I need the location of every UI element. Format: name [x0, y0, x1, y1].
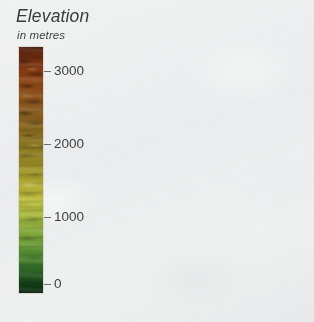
tick-mark-icon — [44, 284, 51, 285]
tick-mark-icon — [44, 217, 51, 218]
paper-texture-overlay — [0, 0, 314, 322]
tick-mark-icon — [44, 144, 51, 145]
tick-label: 1000 — [54, 210, 84, 224]
tick-mark-icon — [44, 71, 51, 72]
colorbar-texture-highlights — [19, 47, 43, 293]
tick-label: 0 — [54, 277, 62, 291]
tick-label: 2000 — [54, 137, 84, 151]
elevation-legend-panel: Elevation in metres 3000 2000 1000 0 — [0, 0, 314, 322]
legend-title: Elevation — [16, 6, 89, 27]
elevation-colorbar — [18, 46, 44, 294]
colorbar-gradient — [19, 47, 43, 293]
legend-subtitle-units: in metres — [17, 29, 65, 41]
tick-label: 3000 — [54, 64, 84, 78]
